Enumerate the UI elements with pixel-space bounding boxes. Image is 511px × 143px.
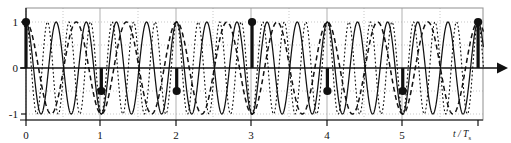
sample-marker (97, 87, 105, 95)
x-tick-label-2: 2 (173, 129, 179, 141)
x-axis-caption-subscript: s (468, 134, 471, 141)
x-tick-label-0: 0 (23, 129, 29, 141)
x-tick-label-1: 1 (97, 129, 103, 141)
sample-marker (474, 18, 482, 26)
y-tick-label-1: 1 (13, 16, 19, 28)
x-axis (20, 120, 483, 126)
x-axis-caption-main: t / T (453, 129, 469, 139)
x-axis-caption: t / Ts (453, 129, 471, 141)
sample-marker (399, 87, 407, 95)
sample-marker (22, 18, 30, 26)
plot-canvas: 1 0 -1 0 1 2 3 4 5 t / Ts (0, 0, 511, 143)
sample-marker (323, 87, 331, 95)
y-tick-label-0: 0 (13, 62, 19, 74)
x-tick-label-4: 4 (324, 129, 330, 141)
x-axis-arrowhead (497, 63, 508, 74)
figure-root: 1 0 -1 0 1 2 3 4 5 t / Ts (0, 0, 511, 143)
x-tick-label-5: 5 (399, 129, 405, 141)
y-tick-label-neg1: -1 (9, 108, 18, 120)
x-tick-label-3: 3 (248, 129, 254, 141)
sample-marker (248, 18, 256, 26)
sample-marker (173, 87, 181, 95)
